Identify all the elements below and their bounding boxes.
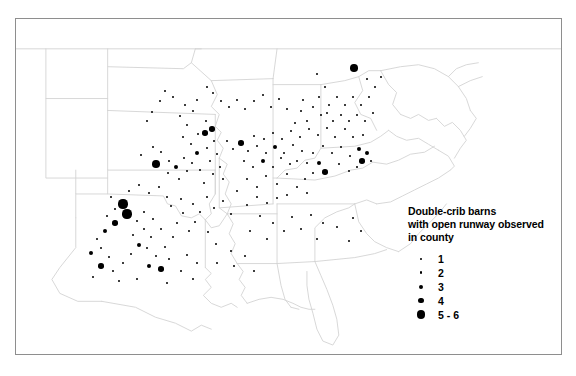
legend-items: 12345 - 6 <box>410 252 564 322</box>
legend-row: 5 - 6 <box>410 308 564 322</box>
figure-page: Double-crib barns with open runway obser… <box>0 0 576 376</box>
legend: Double-crib barns with open runway obser… <box>408 205 564 322</box>
legend-dot-icon <box>410 285 432 289</box>
legend-label: 5 - 6 <box>438 308 459 322</box>
legend-row: 2 <box>410 266 564 280</box>
legend-title: Double-crib barns with open runway obser… <box>408 205 564 245</box>
legend-label: 1 <box>438 252 444 266</box>
legend-row: 1 <box>410 252 564 266</box>
legend-label: 3 <box>438 280 444 294</box>
legend-label: 2 <box>438 266 444 280</box>
legend-label: 4 <box>438 294 444 308</box>
legend-dot-icon <box>410 258 432 260</box>
legend-dot-icon <box>410 310 432 318</box>
legend-dot-icon <box>410 271 432 274</box>
legend-row: 3 <box>410 280 564 294</box>
legend-row: 4 <box>410 294 564 308</box>
legend-dot-icon <box>410 298 432 303</box>
